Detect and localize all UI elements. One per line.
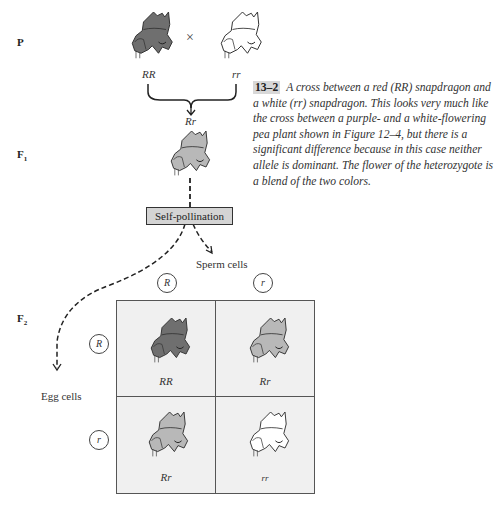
grid-vertical-divider [215, 301, 216, 493]
punnett-cell-rr-hetero-top: Rr [216, 301, 314, 397]
egg-allele-dominant: R [89, 334, 109, 354]
caption-text: A cross between a red (RR) snapdragon an… [253, 81, 493, 188]
egg-cells-label: Egg cells [41, 390, 82, 402]
white-flower-icon [249, 412, 289, 458]
punnett-cell-rr-recessive: rr [216, 397, 314, 493]
self-pollination-box: Self-pollination [146, 207, 233, 225]
pink-flower-icon [148, 412, 188, 458]
grid-horizontal-divider [117, 396, 314, 397]
sperm-allele-dominant: R [157, 273, 177, 293]
figure-number: 13–2 [253, 81, 280, 94]
punnett-genotype: rr [216, 473, 314, 483]
egg-allele-recessive: r [89, 430, 109, 450]
red-flower-icon [150, 318, 190, 364]
punnett-genotype: Rr [216, 375, 314, 387]
sperm-cells-label: Sperm cells [196, 258, 248, 270]
punnett-cell-rr-hetero-bottom: Rr [117, 397, 215, 493]
punnett-square: RR Rr Rr rr [116, 300, 315, 494]
figure-caption: 13–2A cross between a red (RR) snapdrago… [253, 80, 499, 189]
punnett-genotype: Rr [117, 471, 215, 483]
pink-flower-icon [249, 318, 289, 364]
punnett-cell-rr-dominant: RR [117, 301, 215, 397]
punnett-genotype: RR [117, 375, 215, 387]
sperm-allele-recessive: r [253, 273, 273, 293]
